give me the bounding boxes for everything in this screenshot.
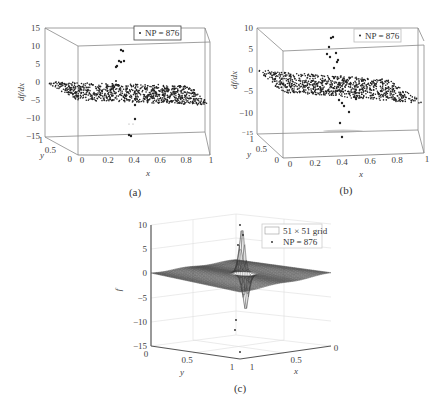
- svg-text:0.5: 0.5: [181, 355, 193, 365]
- svg-text:0.8: 0.8: [391, 155, 403, 165]
- svg-text:15: 15: [31, 23, 41, 33]
- svg-text:0: 0: [288, 159, 293, 169]
- svg-text:−5: −5: [243, 86, 253, 96]
- svg-text:−10: −10: [133, 317, 148, 327]
- svg-text:x: x: [293, 366, 298, 376]
- svg-text:51 × 51 grid: 51 × 51 grid: [283, 226, 328, 236]
- svg-text:10: 10: [244, 23, 254, 33]
- svg-text:0.6: 0.6: [154, 155, 166, 165]
- svg-text:0.5: 0.5: [45, 145, 57, 155]
- svg-text:1: 1: [230, 362, 235, 372]
- svg-text:−10: −10: [26, 113, 41, 123]
- svg-text:NP = 876: NP = 876: [283, 237, 318, 247]
- svg-text:1: 1: [250, 134, 255, 144]
- svg-text:5: 5: [36, 59, 41, 69]
- svg-text:0: 0: [80, 155, 85, 165]
- svg-text:0: 0: [249, 65, 254, 75]
- chart-a: 15 10 5 0 −5 −10 −15 df/dx 1 0.5 0 y 0 0…: [16, 23, 213, 199]
- z-axis-label-a: df/dx: [16, 83, 26, 101]
- svg-text:0.2: 0.2: [309, 158, 320, 168]
- chart-b: 10 5 0 −5 −10 −15 df/dx 1 0.5 0 y 0 0.2 …: [229, 23, 429, 197]
- svg-text:1: 1: [39, 135, 44, 145]
- svg-text:0.5: 0.5: [290, 355, 302, 365]
- svg-text:−5: −5: [30, 95, 40, 105]
- legend-a: NP = 876: [134, 26, 181, 40]
- chart-c: 10 5 0 −5 −10 −15 f 0 0.5 1 y 1 0.5 0 x …: [113, 214, 339, 395]
- caption-b: (b): [340, 184, 353, 197]
- caption-c: (c): [234, 382, 247, 395]
- svg-text:0: 0: [144, 349, 149, 359]
- outlier-points-a: [115, 49, 136, 137]
- svg-text:0: 0: [36, 77, 41, 87]
- z-axis-label-b: df/dx: [229, 71, 239, 89]
- svg-text:y: y: [246, 149, 251, 159]
- svg-text:NP = 876: NP = 876: [365, 31, 400, 41]
- svg-text:0.8: 0.8: [180, 155, 192, 165]
- z-axis-label-c: f: [113, 287, 123, 291]
- svg-text:1: 1: [425, 154, 430, 164]
- x-axis-ticks-a: 0 0.2 0.4 0.6 0.8 1: [80, 155, 214, 165]
- svg-text:0: 0: [334, 343, 339, 353]
- svg-text:y: y: [179, 367, 184, 377]
- svg-text:−5: −5: [137, 293, 147, 303]
- svg-text:0: 0: [68, 154, 73, 164]
- y-axis-ticks-c: 0 0.5 1: [144, 349, 235, 372]
- svg-text:5: 5: [249, 44, 254, 54]
- z-axis-ticks-a: 15 10 5 0 −5 −10 −15: [26, 23, 41, 141]
- svg-text:0.2: 0.2: [102, 155, 113, 165]
- svg-text:0: 0: [275, 155, 280, 165]
- caption-a: (a): [129, 186, 142, 199]
- svg-text:y: y: [39, 150, 44, 160]
- svg-text:0: 0: [143, 268, 148, 278]
- z-axis-ticks-b: 10 5 0 −5 −10 −15: [239, 23, 254, 137]
- svg-text:x: x: [358, 169, 363, 179]
- svg-text:5: 5: [143, 244, 148, 254]
- svg-text:0.6: 0.6: [364, 156, 376, 166]
- svg-text:1: 1: [250, 362, 255, 372]
- svg-text:10: 10: [31, 41, 41, 51]
- x-axis-ticks-b: 0 0.2 0.4 0.6 0.8 1: [288, 154, 430, 169]
- svg-text:x: x: [145, 168, 150, 178]
- figure-canvas: 15 10 5 0 −5 −10 −15 df/dx 1 0.5 0 y 0 0…: [0, 0, 445, 410]
- svg-text:0.5: 0.5: [256, 144, 268, 154]
- scatter-plane-a: [49, 81, 208, 105]
- legend-b: NP = 876: [354, 29, 401, 42]
- svg-text:10: 10: [138, 220, 148, 230]
- svg-text:0.4: 0.4: [336, 157, 348, 167]
- svg-text:1: 1: [209, 155, 214, 165]
- svg-text:0.4: 0.4: [128, 155, 140, 165]
- z-axis-ticks-c: 10 5 0 −5 −10 −15: [133, 220, 148, 351]
- svg-text:−10: −10: [239, 108, 254, 118]
- legend-c: 51 × 51 grid NP = 876: [262, 224, 328, 248]
- svg-text:NP = 876: NP = 876: [145, 28, 180, 38]
